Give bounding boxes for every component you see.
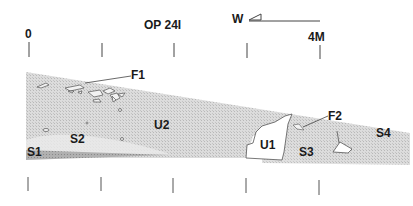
- section-drawing: [0, 0, 413, 206]
- layer-label-u2: U2: [154, 119, 169, 131]
- layer-label-s2: S2: [70, 133, 85, 145]
- scale-start-label: 0: [25, 28, 32, 40]
- top-scale-ticks: [29, 42, 320, 59]
- west-arrow-icon: [249, 14, 320, 21]
- layer-label-f2: F2: [328, 110, 342, 122]
- bottom-scale-ticks: [28, 177, 319, 195]
- scale-end-label: 4M: [308, 31, 325, 43]
- layer-label-s4: S4: [376, 127, 391, 139]
- layer-label-u1: U1: [260, 139, 275, 151]
- section-title: OP 24I: [144, 19, 181, 31]
- f1-leader: [85, 76, 131, 83]
- layer-label-s3: S3: [299, 146, 314, 158]
- layer-label-s1: S1: [27, 146, 42, 158]
- layer-label-f1: F1: [131, 69, 145, 81]
- orientation-label: W: [232, 13, 243, 25]
